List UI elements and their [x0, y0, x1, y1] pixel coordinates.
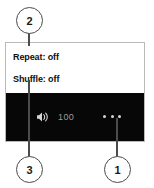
callout-badge-1: 1 [104, 156, 131, 183]
callout-badge-3: 3 [16, 156, 43, 183]
speaker-volume-icon[interactable] [36, 111, 49, 123]
media-player-panel: Repeat: off Shuffle: off 100 [5, 42, 145, 142]
shuffle-setting[interactable]: Shuffle: off [13, 74, 59, 84]
volume-level-value: 100 [58, 111, 74, 123]
settings-list: Repeat: off Shuffle: off [6, 43, 144, 93]
player-control-bar: 100 [6, 93, 144, 142]
callout-badge-2: 2 [16, 7, 43, 34]
repeat-setting[interactable]: Repeat: off [13, 52, 59, 62]
ellipsis-icon-dot [111, 115, 114, 118]
callout-leader-line-3 [28, 80, 30, 158]
ellipsis-icon-dot [118, 115, 121, 118]
volume-control[interactable]: 100 [36, 109, 74, 125]
callout-leader-line-1 [116, 118, 118, 158]
callout-leader-line-2 [28, 32, 30, 46]
more-options-button[interactable] [103, 111, 121, 121]
ellipsis-icon-dot [103, 115, 106, 118]
screenshot-root: Repeat: off Shuffle: off 100 [0, 0, 154, 188]
